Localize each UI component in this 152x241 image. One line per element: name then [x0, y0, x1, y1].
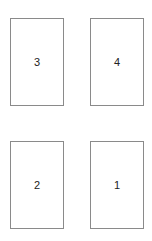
- box-label: 4: [114, 56, 120, 68]
- box-3: 3: [10, 18, 64, 106]
- box-label: 3: [34, 56, 40, 68]
- box-label: 1: [114, 179, 120, 191]
- box-label: 2: [34, 179, 40, 191]
- box-1: 1: [90, 141, 144, 229]
- box-2: 2: [10, 141, 64, 229]
- box-4: 4: [90, 18, 144, 106]
